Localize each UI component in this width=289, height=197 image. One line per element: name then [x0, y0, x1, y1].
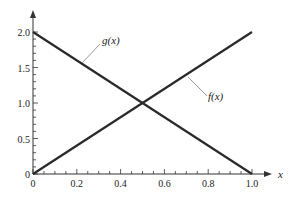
- y-tick-label: 1.0: [18, 98, 31, 109]
- x-tick-label: 0.6: [158, 178, 171, 189]
- x-tick-label: 0.8: [202, 178, 215, 189]
- y-axis-arrow-icon: [30, 10, 36, 18]
- chart: 00.20.40.60.81.000.51.01.52.0 x g(x) f(x…: [0, 0, 289, 197]
- x-tick-label: 0.2: [71, 178, 84, 189]
- f-label: f(x): [208, 90, 224, 103]
- x-tick-label: 1.0: [246, 178, 259, 189]
- y-tick-label: 2.0: [18, 27, 31, 38]
- y-tick-label: 0.5: [18, 134, 31, 145]
- x-tick-label: 0: [31, 178, 36, 189]
- x-axis-label: x: [277, 168, 283, 180]
- y-tick-label: 1.5: [18, 63, 31, 74]
- y-tick-label: 0: [25, 169, 30, 180]
- g-label: g(x): [102, 34, 120, 47]
- f-leader-line: [188, 77, 207, 96]
- x-axis-arrow-icon: [264, 171, 272, 177]
- x-tick-label: 0.4: [114, 178, 127, 189]
- g-leader-line: [82, 44, 100, 63]
